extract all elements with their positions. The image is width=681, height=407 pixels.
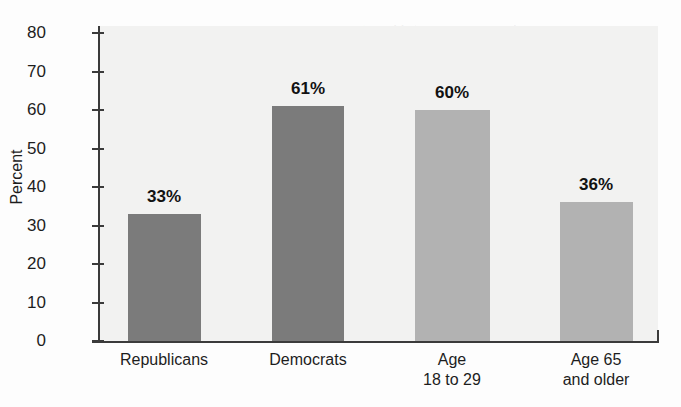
y-axis-title: Percent xyxy=(8,122,26,232)
y-axis-tick xyxy=(92,186,104,188)
y-axis-tick-label: 0 xyxy=(6,332,46,349)
y-axis-tick-label: 70 xyxy=(6,63,46,80)
x-axis-category-label-line: Age xyxy=(382,350,522,370)
y-axis-tick xyxy=(92,340,104,342)
y-axis-tick-label: 50 xyxy=(6,140,46,157)
y-axis-tick xyxy=(92,148,104,150)
x-axis-category-label: Democrats xyxy=(238,350,378,370)
y-axis-tick xyxy=(92,109,104,111)
y-axis-tick xyxy=(92,302,104,304)
x-axis-category-label-line: Republicans xyxy=(94,350,234,370)
x-axis-category-label-line: Age 65 xyxy=(526,350,666,370)
bar-chart-figure: the U.S. must act (table 4.5) respondent… xyxy=(0,0,681,407)
x-axis-category-label-line: 18 to 29 xyxy=(382,370,522,390)
y-axis-tick-label: 80 xyxy=(6,24,46,41)
y-axis-line xyxy=(98,26,100,342)
y-axis-tick xyxy=(92,263,104,265)
y-axis-tick xyxy=(92,71,104,73)
y-axis-tick-label: 30 xyxy=(6,217,46,234)
bar-value-label: 36% xyxy=(551,175,641,195)
x-axis-category-label-line: and older xyxy=(526,370,666,390)
x-axis-category-label-line: Democrats xyxy=(238,350,378,370)
bar-value-label: 61% xyxy=(263,79,353,99)
y-axis-tick-label: 60 xyxy=(6,101,46,118)
x-axis-line xyxy=(92,341,659,343)
bar[interactable] xyxy=(272,106,344,341)
y-axis-tick-label: 20 xyxy=(6,255,46,272)
y-axis-tick xyxy=(92,32,104,34)
x-axis-category-label: Republicans xyxy=(94,350,234,370)
bar[interactable] xyxy=(560,202,633,341)
x-axis-category-label: Age18 to 29 xyxy=(382,350,522,390)
bar[interactable] xyxy=(415,110,490,341)
x-axis-category-label: Age 65and older xyxy=(526,350,666,390)
y-axis-tick-label: 10 xyxy=(6,294,46,311)
bar-value-label: 33% xyxy=(119,187,209,207)
y-axis-tick-label: 40 xyxy=(6,178,46,195)
bar-value-label: 60% xyxy=(407,83,497,103)
y-axis-tick xyxy=(92,225,104,227)
x-axis-end-tick xyxy=(657,330,659,343)
bar[interactable] xyxy=(128,214,201,341)
